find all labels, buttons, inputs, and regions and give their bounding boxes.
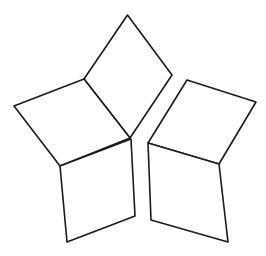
diagram-canvas: [0, 0, 266, 256]
star-tiles-diagram: [0, 0, 266, 256]
